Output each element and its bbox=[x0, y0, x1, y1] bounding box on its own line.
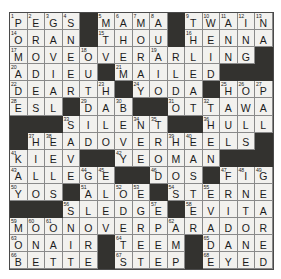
crossword-cell[interactable]: T bbox=[133, 252, 151, 269]
crossword-cell[interactable]: V bbox=[203, 201, 221, 218]
crossword-cell[interactable]: R bbox=[133, 47, 151, 64]
crossword-cell[interactable]: 4S bbox=[63, 13, 81, 30]
crossword-cell[interactable]: R bbox=[150, 133, 168, 150]
crossword-cell[interactable]: 46D bbox=[150, 167, 168, 184]
crossword-cell[interactable]: S bbox=[45, 184, 63, 201]
crossword-cell[interactable]: 6A bbox=[115, 13, 133, 30]
crossword-cell[interactable]: E bbox=[150, 252, 168, 269]
crossword-cell[interactable]: P bbox=[150, 218, 168, 235]
crossword-cell[interactable]: 41K bbox=[10, 150, 28, 167]
crossword-cell[interactable]: A bbox=[63, 133, 81, 150]
crossword-cell[interactable]: 51A bbox=[80, 184, 98, 201]
crossword-cell[interactable]: 50Y bbox=[10, 184, 28, 201]
crossword-cell[interactable]: I bbox=[150, 64, 168, 81]
crossword-cell[interactable]: A bbox=[203, 218, 221, 235]
crossword-cell[interactable]: O bbox=[168, 167, 186, 184]
crossword-cell[interactable]: E bbox=[80, 252, 98, 269]
crossword-cell[interactable]: O bbox=[133, 30, 151, 47]
crossword-cell[interactable]: 21M bbox=[115, 64, 133, 81]
crossword-cell[interactable]: 17M bbox=[10, 47, 28, 64]
crossword-cell[interactable]: R bbox=[168, 47, 186, 64]
crossword-cell[interactable]: 45E bbox=[98, 167, 116, 184]
crossword-cell[interactable]: O bbox=[28, 184, 46, 201]
crossword-cell[interactable]: E bbox=[133, 150, 151, 167]
crossword-cell[interactable]: E bbox=[238, 252, 256, 269]
crossword-cell[interactable]: L bbox=[168, 64, 186, 81]
crossword-cell[interactable]: L bbox=[45, 98, 63, 115]
crossword-cell[interactable]: T bbox=[238, 201, 256, 218]
crossword-cell[interactable]: 53E bbox=[133, 184, 151, 201]
crossword-cell[interactable]: 9T bbox=[185, 13, 203, 30]
crossword-cell[interactable]: L bbox=[185, 47, 203, 64]
crossword-cell[interactable]: 26O bbox=[238, 81, 256, 98]
crossword-cell[interactable]: E bbox=[63, 64, 81, 81]
crossword-cell[interactable]: 62A bbox=[168, 218, 186, 235]
crossword-cell[interactable]: 68E bbox=[203, 252, 221, 269]
crossword-cell[interactable]: 33S bbox=[63, 116, 81, 133]
crossword-cell[interactable]: 19A bbox=[150, 47, 168, 64]
crossword-cell[interactable]: 58E bbox=[185, 201, 203, 218]
crossword-cell[interactable]: V bbox=[63, 150, 81, 167]
crossword-cell[interactable]: T bbox=[185, 184, 203, 201]
crossword-cell[interactable]: 52O bbox=[115, 184, 133, 201]
crossword-cell[interactable]: L bbox=[238, 116, 256, 133]
crossword-cell[interactable]: T bbox=[45, 252, 63, 269]
crossword-cell[interactable]: 61O bbox=[45, 218, 63, 235]
crossword-cell[interactable]: 15T bbox=[98, 30, 116, 47]
crossword-cell[interactable]: A bbox=[45, 30, 63, 47]
crossword-cell[interactable]: E bbox=[203, 133, 221, 150]
crossword-cell[interactable]: 36H bbox=[203, 116, 221, 133]
crossword-cell[interactable]: R bbox=[255, 218, 273, 235]
crossword-cell[interactable]: L bbox=[28, 167, 46, 184]
crossword-cell[interactable]: I bbox=[80, 116, 98, 133]
crossword-cell[interactable]: M bbox=[168, 235, 186, 252]
crossword-cell[interactable]: A bbox=[185, 81, 203, 98]
crossword-cell[interactable]: Y bbox=[220, 252, 238, 269]
crossword-cell[interactable]: G bbox=[133, 201, 151, 218]
crossword-cell[interactable]: T bbox=[185, 98, 203, 115]
crossword-cell[interactable]: O bbox=[150, 150, 168, 167]
crossword-cell[interactable]: 1P bbox=[10, 13, 28, 30]
crossword-cell[interactable]: D bbox=[80, 133, 98, 150]
crossword-cell[interactable]: E bbox=[185, 64, 203, 81]
crossword-cell[interactable]: L bbox=[255, 116, 273, 133]
crossword-cell[interactable]: E bbox=[150, 235, 168, 252]
crossword-cell[interactable]: 23H bbox=[98, 81, 116, 98]
crossword-cell[interactable]: 42Y bbox=[115, 150, 133, 167]
crossword-cell[interactable]: U bbox=[220, 116, 238, 133]
crossword-cell[interactable]: 20A bbox=[10, 64, 28, 81]
crossword-cell[interactable]: N bbox=[238, 235, 256, 252]
crossword-cell[interactable]: 44G bbox=[80, 167, 98, 184]
crossword-cell[interactable]: A bbox=[255, 201, 273, 218]
crossword-cell[interactable]: A bbox=[220, 98, 238, 115]
crossword-cell[interactable]: R bbox=[80, 235, 98, 252]
crossword-cell[interactable]: E bbox=[255, 235, 273, 252]
crossword-cell[interactable]: S bbox=[185, 167, 203, 184]
crossword-cell[interactable]: D bbox=[203, 64, 221, 81]
crossword-cell[interactable]: A bbox=[220, 235, 238, 252]
crossword-cell[interactable]: O bbox=[98, 133, 116, 150]
crossword-cell[interactable]: E bbox=[28, 252, 46, 269]
crossword-cell[interactable]: 65D bbox=[203, 235, 221, 252]
crossword-cell[interactable]: N bbox=[238, 184, 256, 201]
crossword-cell[interactable]: L bbox=[45, 167, 63, 184]
crossword-cell[interactable]: M bbox=[168, 150, 186, 167]
crossword-cell[interactable]: S bbox=[28, 98, 46, 115]
crossword-cell[interactable]: I bbox=[28, 150, 46, 167]
crossword-cell[interactable]: E bbox=[133, 235, 151, 252]
crossword-cell[interactable]: N bbox=[238, 30, 256, 47]
crossword-cell[interactable]: O bbox=[80, 218, 98, 235]
crossword-cell[interactable]: U bbox=[80, 64, 98, 81]
crossword-grid[interactable]: 1P2E3G4S5M6A7M8A9T10W11A12I13N14ORAN15TH… bbox=[9, 12, 274, 270]
crossword-cell[interactable]: L bbox=[98, 184, 116, 201]
crossword-cell[interactable]: D bbox=[115, 201, 133, 218]
crossword-cell[interactable]: 64T bbox=[115, 235, 133, 252]
crossword-cell[interactable]: A bbox=[45, 81, 63, 98]
crossword-cell[interactable]: 29D bbox=[80, 98, 98, 115]
crossword-cell[interactable]: 60O bbox=[28, 218, 46, 235]
crossword-cell[interactable]: 43A bbox=[10, 167, 28, 184]
crossword-cell[interactable]: N bbox=[203, 150, 221, 167]
crossword-cell[interactable]: N bbox=[63, 218, 81, 235]
crossword-cell[interactable]: 13N bbox=[255, 13, 273, 30]
crossword-cell[interactable]: R bbox=[220, 184, 238, 201]
